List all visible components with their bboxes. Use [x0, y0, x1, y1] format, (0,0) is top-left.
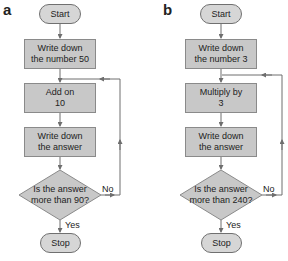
diagram-b-stop-terminal: Stop [201, 233, 242, 253]
step-line1: Add on [46, 87, 75, 98]
step-line2: the number 50 [31, 54, 89, 65]
diagram-b-decision-text: Is the answer more than 240? [183, 182, 259, 208]
start-text: Start [50, 9, 69, 20]
diagram-a-no-label: No [102, 184, 114, 194]
diagram-b-step-write-number: Write down the number 3 [185, 39, 257, 69]
decision-line1: Is the answer [189, 184, 252, 195]
step-line2: 3 [200, 98, 243, 109]
diagram-a-step-add: Add on 10 [24, 83, 96, 113]
diagram-b-step-multiply: Multiply by 3 [185, 83, 257, 113]
diagram-a-label: a [3, 2, 11, 17]
step-line2: 10 [46, 98, 75, 109]
step-line2: the number 3 [194, 54, 247, 65]
decision-line1: Is the answer [31, 184, 89, 195]
diagram-a-start-terminal: Start [39, 4, 81, 24]
decision-line2: more than 240? [189, 195, 252, 206]
diagram-b-no-label: No [263, 184, 275, 194]
diagram-b-label: b [163, 2, 172, 17]
diagram-a-step-write-answer: Write down the answer [24, 127, 96, 157]
diagram-a-step-write-number: Write down the number 50 [24, 39, 96, 69]
step-line1: Write down [31, 43, 89, 54]
step-line1: Write down [199, 131, 244, 142]
diagram-b-yes-label: Yes [226, 220, 241, 230]
diagram-b-start-terminal: Start [200, 4, 242, 24]
diagram-a-yes-label: Yes [65, 220, 80, 230]
step-line1: Multiply by [200, 87, 243, 98]
stop-text: Stop [51, 238, 70, 249]
step-line1: Write down [38, 131, 83, 142]
decision-line2: more than 90? [31, 195, 89, 206]
step-line2: the answer [38, 142, 83, 153]
diagram-a-decision-text: Is the answer more than 90? [24, 182, 96, 208]
step-line2: the answer [199, 142, 244, 153]
diagram-a-stop-terminal: Stop [40, 233, 81, 253]
start-text: Start [211, 9, 230, 20]
stop-text: Stop [212, 238, 231, 249]
diagram-b-step-write-answer: Write down the answer [185, 127, 257, 157]
step-line1: Write down [194, 43, 247, 54]
